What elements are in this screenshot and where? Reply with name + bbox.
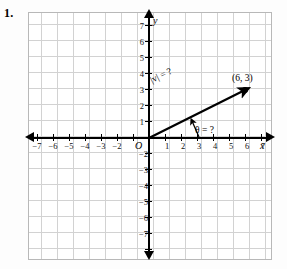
figure-root: 1. — [0, 0, 287, 269]
vector-angle-label: θ = ? — [195, 125, 214, 135]
vector-graphic — [29, 13, 273, 261]
coordinate-plane: −7 −6 −5 −4 −3 −2 1 2 3 4 5 6 7 7 6 5 4 … — [28, 12, 272, 260]
vector-endpoint-dot — [242, 87, 248, 93]
vector-endpoint-label: (6, 3) — [232, 73, 253, 83]
problem-number: 1. — [4, 6, 14, 21]
